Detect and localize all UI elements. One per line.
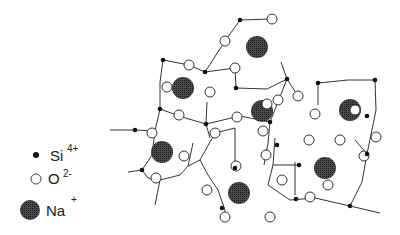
- bond-line: [205, 41, 225, 72]
- silicon-atom: [238, 18, 243, 23]
- oxygen-atom: [184, 60, 194, 70]
- oxygen-atom: [273, 95, 283, 105]
- bond-line: [350, 206, 380, 213]
- svg-text:Si: Si: [50, 147, 63, 164]
- silicon-atom: [161, 58, 166, 63]
- silicon-atom: [365, 114, 370, 119]
- svg-text:Na: Na: [46, 202, 66, 219]
- oxygen-atom: [230, 63, 240, 73]
- bond-line: [318, 80, 348, 83]
- bond-line: [268, 122, 270, 143]
- si-marker-icon: [33, 152, 39, 158]
- oxygen-atom: [220, 36, 230, 46]
- sodium-ion: [151, 141, 173, 163]
- oxygen-atom: [261, 150, 271, 160]
- oxygen-atom: [232, 112, 242, 122]
- bond-line: [350, 182, 362, 206]
- bond-line: [155, 180, 160, 205]
- na-marker-icon: [20, 200, 40, 220]
- legend-label-o: O: [48, 170, 60, 187]
- bond-line: [182, 117, 206, 124]
- oxygen-atom: [262, 99, 272, 109]
- bond-line: [200, 160, 208, 175]
- oxygen-atom: [147, 128, 157, 138]
- oxygen-atom: [162, 82, 172, 92]
- sodium-ion: [172, 77, 194, 99]
- oxygen-atom: [371, 132, 381, 142]
- oxygen-atom: [305, 192, 315, 202]
- oxygen-atom: [151, 173, 161, 183]
- oxygen-atom: [205, 87, 215, 97]
- silicon-atom: [348, 204, 353, 209]
- legend-item-na: Na +: [20, 194, 77, 220]
- bond-line: [281, 62, 287, 79]
- bond-line: [273, 138, 275, 165]
- bond-line: [375, 80, 376, 110]
- silicon-atom: [203, 70, 208, 75]
- oxygen-atom: [335, 135, 345, 145]
- bond-line: [268, 185, 290, 200]
- bond-line: [155, 109, 160, 131]
- silicon-atom: [316, 81, 321, 86]
- silicon-atom: [373, 78, 378, 83]
- o-marker-icon: [31, 174, 41, 184]
- legend-charge-o: 2-: [63, 168, 72, 179]
- sodium-ion: [246, 36, 268, 58]
- bond-line: [160, 60, 163, 82]
- bond-line: [206, 102, 207, 124]
- bond-line: [180, 166, 188, 175]
- legend-label-na: Na: [46, 202, 66, 219]
- oxygen-atom: [179, 151, 189, 161]
- oxygen-atom: [293, 91, 303, 101]
- oxygen-atom: [265, 212, 275, 222]
- oxygen-atom: [174, 110, 184, 120]
- sodium-ion: [314, 157, 336, 179]
- svg-text:O: O: [48, 170, 60, 187]
- bond-line: [236, 88, 267, 89]
- silicon-atom: [158, 107, 163, 112]
- legend-charge-si: 4+: [67, 143, 79, 154]
- bond-line: [315, 198, 350, 206]
- silicate-network-diagram: Si 4+ O 2- Na +: [0, 0, 400, 235]
- silicon-atom: [268, 120, 273, 125]
- oxygen-atom: [323, 180, 333, 190]
- oxygen-atom: [210, 128, 220, 138]
- oxygen-atom: [220, 212, 230, 222]
- oxygen-atom: [277, 175, 287, 185]
- silicon-atom: [220, 206, 225, 211]
- silicon-atom: [140, 168, 145, 173]
- legend-item-si: Si 4+: [33, 143, 79, 164]
- silicon-atom: [204, 122, 209, 127]
- bond-line: [268, 165, 273, 185]
- oxygen-atom: [258, 126, 268, 136]
- oxygen-atom: [267, 14, 277, 24]
- oxygen-atom: [304, 135, 314, 145]
- silicon-atom: [294, 197, 299, 202]
- silicon-atom: [275, 143, 280, 148]
- silicon-atom: [297, 163, 302, 168]
- silicon-atom: [234, 86, 239, 91]
- legend-charge-na: +: [71, 194, 77, 205]
- bond-line: [142, 155, 152, 170]
- legend-item-o: O 2-: [31, 168, 72, 187]
- legend-label-si: Si: [50, 147, 63, 164]
- silicon-atom: [365, 152, 370, 157]
- bond-line: [188, 160, 200, 166]
- silicon-atom: [233, 166, 238, 171]
- sodium-ion: [228, 182, 250, 204]
- silicon-atom: [285, 77, 290, 82]
- oxygen-atom: [310, 109, 320, 119]
- silicon-atom: [133, 128, 138, 133]
- sodium-ions-layer: [151, 36, 361, 204]
- bond-line: [160, 175, 180, 180]
- oxygen-atom: [202, 185, 212, 195]
- oxygen-atom: [350, 105, 360, 115]
- legend: Si 4+ O 2- Na +: [20, 143, 79, 220]
